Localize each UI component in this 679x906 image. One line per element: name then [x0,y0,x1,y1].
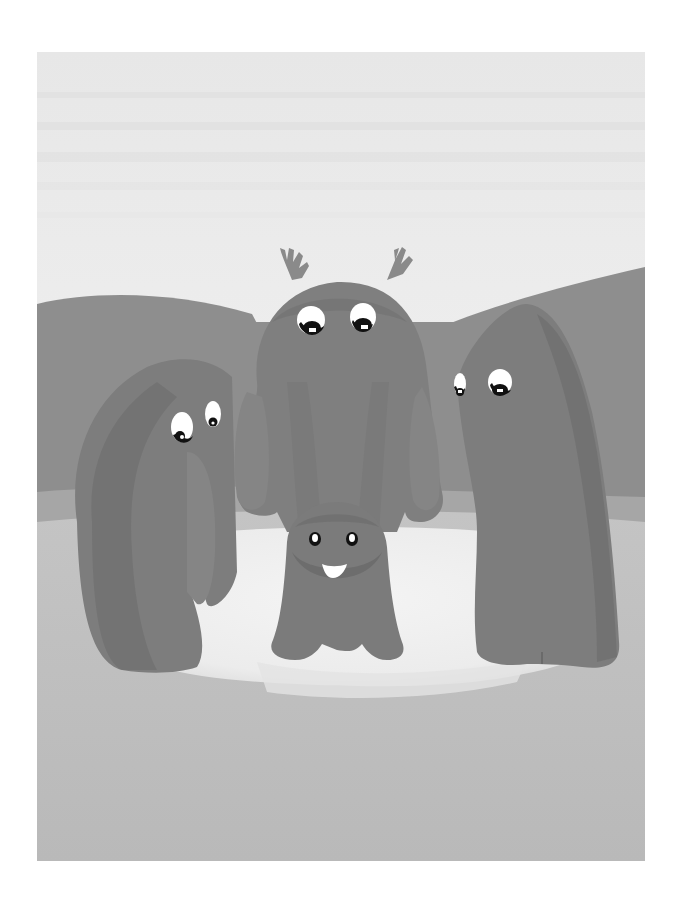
illustration-canvas [37,52,645,861]
illustration-frame [37,52,645,861]
